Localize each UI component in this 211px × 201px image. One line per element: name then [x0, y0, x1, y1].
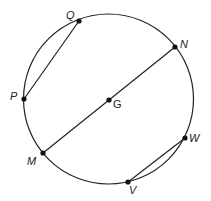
label-P: P: [10, 90, 18, 102]
point-Q: [76, 18, 81, 23]
label-G: G: [113, 98, 122, 110]
point-G: [106, 97, 111, 102]
label-Q: Q: [66, 9, 75, 21]
label-V: V: [129, 184, 138, 196]
point-M: [40, 150, 45, 155]
point-W: [182, 135, 187, 140]
segments-group: [24, 21, 185, 182]
points-group: [21, 18, 187, 184]
circle-diagram: QPNGMWV: [0, 0, 211, 201]
label-M: M: [27, 155, 37, 167]
point-P: [21, 96, 26, 101]
chord-PQ: [24, 21, 79, 99]
label-N: N: [180, 38, 188, 50]
point-N: [172, 44, 177, 49]
chord-VW: [128, 138, 185, 182]
label-W: W: [189, 132, 201, 144]
